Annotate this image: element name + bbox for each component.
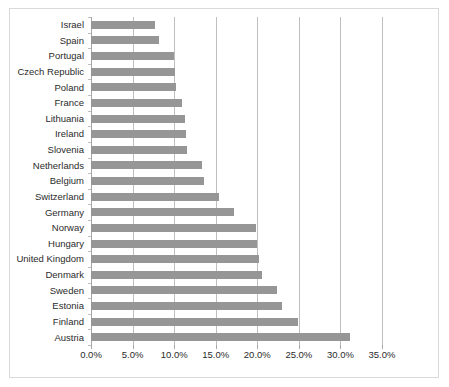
category-label: Spain <box>10 33 88 49</box>
bar[interactable] <box>91 36 159 44</box>
bar[interactable] <box>91 115 185 123</box>
category-tick <box>88 283 91 284</box>
value-axis-label: 35.0% <box>369 350 396 360</box>
bar[interactable] <box>91 21 155 29</box>
bar-row <box>91 48 382 64</box>
category-tick <box>88 251 91 252</box>
bar-row <box>91 205 382 221</box>
bar[interactable] <box>91 161 202 169</box>
bar[interactable] <box>91 99 182 107</box>
category-label: Ireland <box>10 126 88 142</box>
value-axis-label: 5.0% <box>122 350 144 360</box>
category-label: Denmark <box>10 267 88 283</box>
category-tick <box>88 17 91 18</box>
category-label: Lithuania <box>10 111 88 127</box>
bar-row <box>91 126 382 142</box>
category-tick <box>88 33 91 34</box>
bar-row <box>91 283 382 299</box>
category-tick <box>88 79 91 80</box>
category-label: United Kingdom <box>10 251 88 267</box>
category-tick <box>88 111 91 112</box>
bar[interactable] <box>91 333 350 341</box>
bar-series <box>91 17 382 345</box>
category-tick <box>88 298 91 299</box>
bar[interactable] <box>91 130 186 138</box>
value-axis-label: 30.0% <box>327 350 354 360</box>
category-label: Israel <box>10 17 88 33</box>
category-tick <box>88 267 91 268</box>
category-label: Belgium <box>10 173 88 189</box>
bar-row <box>91 251 382 267</box>
category-tick <box>88 173 91 174</box>
bar[interactable] <box>91 83 176 91</box>
value-axis-label: 10.0% <box>161 350 188 360</box>
category-tick <box>88 189 91 190</box>
category-label: Finland <box>10 314 88 330</box>
category-label: Sweden <box>10 283 88 299</box>
bar-row <box>91 142 382 158</box>
bar[interactable] <box>91 208 234 216</box>
category-tick <box>88 95 91 96</box>
category-tick <box>88 158 91 159</box>
category-label: Portugal <box>10 48 88 64</box>
bar-row <box>91 80 382 96</box>
value-axis-label: 0.0% <box>80 350 102 360</box>
bar-row <box>91 267 382 283</box>
chart-plot-wrapper: IsraelSpainPortugalCzech RepublicPolandF… <box>10 9 438 377</box>
bar-row <box>91 173 382 189</box>
value-axis-label: 15.0% <box>202 350 229 360</box>
value-axis-labels: 0.0%5.0%10.0%15.0%20.0%25.0%30.0%35.0% <box>10 350 438 368</box>
bar[interactable] <box>91 318 298 326</box>
chart-frame: IsraelSpainPortugalCzech RepublicPolandF… <box>9 8 439 378</box>
value-axis-label: 25.0% <box>285 350 312 360</box>
value-axis-label: 20.0% <box>244 350 271 360</box>
bar[interactable] <box>91 240 257 248</box>
category-label: Austria <box>10 330 88 346</box>
category-tick <box>88 126 91 127</box>
bar-row <box>91 236 382 252</box>
category-label: Germany <box>10 205 88 221</box>
category-label: Hungary <box>10 236 88 252</box>
category-label: Estonia <box>10 298 88 314</box>
gridline <box>382 17 383 345</box>
category-axis-labels: IsraelSpainPortugalCzech RepublicPolandF… <box>10 17 88 345</box>
bar-row <box>91 189 382 205</box>
bar-row <box>91 17 382 33</box>
bar-row <box>91 158 382 174</box>
category-label: France <box>10 95 88 111</box>
bar-row <box>91 33 382 49</box>
category-tick <box>88 142 91 143</box>
bar[interactable] <box>91 193 219 201</box>
bar[interactable] <box>91 146 187 154</box>
category-label: Poland <box>10 80 88 96</box>
bar-row <box>91 111 382 127</box>
category-label: Switzerland <box>10 189 88 205</box>
bar-row <box>91 330 382 346</box>
plot-area <box>91 17 382 345</box>
bar[interactable] <box>91 286 277 294</box>
bar[interactable] <box>91 177 204 185</box>
bar-row <box>91 64 382 80</box>
category-label: Czech Republic <box>10 64 88 80</box>
bar[interactable] <box>91 271 262 279</box>
category-tick <box>88 314 91 315</box>
bar-row <box>91 95 382 111</box>
category-label: Norway <box>10 220 88 236</box>
category-tick <box>88 220 91 221</box>
category-tick <box>88 64 91 65</box>
bar-row <box>91 314 382 330</box>
bar[interactable] <box>91 255 259 263</box>
bar[interactable] <box>91 224 256 232</box>
category-label: Netherlands <box>10 158 88 174</box>
category-tick <box>88 236 91 237</box>
bar[interactable] <box>91 52 174 60</box>
bar[interactable] <box>91 302 282 310</box>
category-tick <box>88 48 91 49</box>
bar[interactable] <box>91 68 175 76</box>
category-tick <box>88 204 91 205</box>
bar-row <box>91 298 382 314</box>
category-label: Slovenia <box>10 142 88 158</box>
bar-row <box>91 220 382 236</box>
category-tick <box>88 329 91 330</box>
